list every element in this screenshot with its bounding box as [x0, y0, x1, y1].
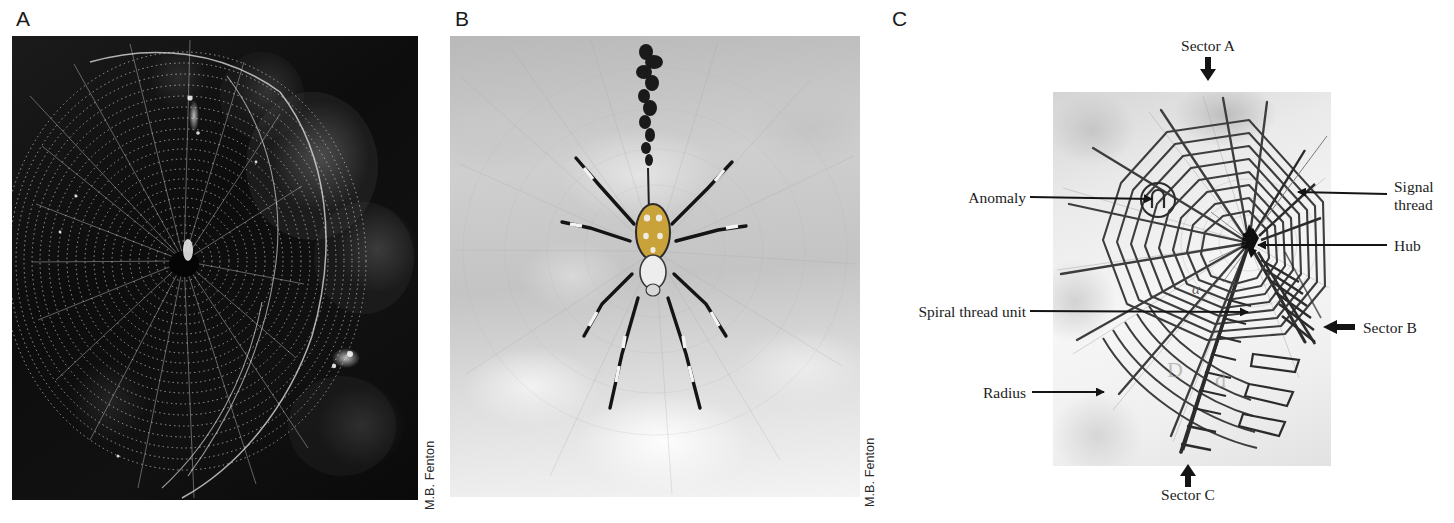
label-sector-a: Sector A: [1132, 37, 1284, 55]
panel-a-photo-credit: M.B. Fenton: [423, 441, 437, 510]
panel-b-photo-credit: M.B. Fenton: [863, 438, 877, 507]
sector-c-arrow: [1180, 464, 1196, 487]
panel-a-web-graphic: [12, 36, 418, 500]
sector-a-arrow: [1200, 57, 1216, 81]
angle-alpha-symbol: α: [1192, 281, 1201, 297]
label-sector-c: Sector C: [1112, 486, 1264, 504]
label-signal-thread-line2: thread: [1394, 196, 1434, 214]
label-sector-b: Sector B: [1363, 319, 1417, 337]
watermark-left: D: [1167, 357, 1183, 382]
panel-a-photograph: [12, 36, 418, 500]
figure-container: A: [0, 0, 1454, 523]
panel-letter-b: B: [455, 8, 470, 29]
panel-c-web-diagram: α D d: [1053, 92, 1331, 466]
panel-letter-a: A: [16, 8, 31, 29]
label-signal-thread: Signal thread: [1394, 178, 1434, 213]
panel-b-photograph: [450, 36, 860, 497]
panel-letter-c: C: [892, 8, 908, 29]
label-signal-thread-line1: Signal: [1394, 178, 1434, 196]
label-radius: Radius: [900, 384, 1026, 402]
watermark-right: d: [1215, 367, 1226, 392]
panel-b-spider-graphic: [450, 36, 860, 497]
label-hub: Hub: [1394, 237, 1421, 255]
panel-c-web-graphic: α D d: [1053, 92, 1331, 466]
label-spiral-thread-unit: Spiral thread unit: [862, 303, 1026, 321]
label-anomaly: Anomaly: [880, 189, 1026, 207]
